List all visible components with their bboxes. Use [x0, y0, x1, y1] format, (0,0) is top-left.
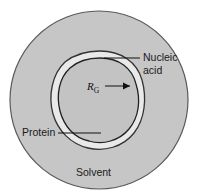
nucleic-acid-core — [58, 58, 138, 143]
diagram-figure: RG Nucleic acid Protein Solvent — [0, 0, 200, 196]
particle-schematic-svg: RG Nucleic acid Protein Solvent — [0, 0, 200, 196]
protein-label: Protein — [22, 126, 55, 138]
solvent-label: Solvent — [76, 166, 111, 178]
radius-subscript: G — [94, 86, 100, 95]
nucleic-acid-label-line1: Nucleic — [143, 51, 177, 63]
nucleic-acid-label-line2: acid — [143, 64, 162, 76]
